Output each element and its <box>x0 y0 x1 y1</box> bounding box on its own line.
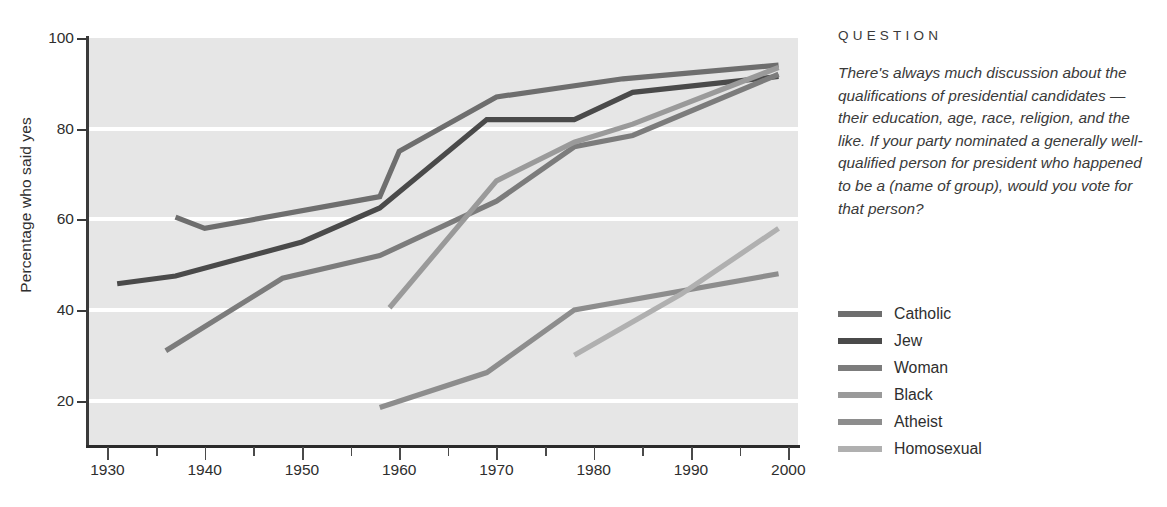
x-tick-mark-minor-1935 <box>156 447 158 456</box>
x-tick-mark-1990 <box>691 447 693 460</box>
x-tick-label-1940: 1940 <box>170 461 240 479</box>
legend-swatch-woman <box>838 365 882 371</box>
legend-item-homosexual[interactable]: Homosexual <box>838 435 1158 462</box>
x-axis-line <box>86 445 800 448</box>
y-tick-label-60: 60 <box>28 210 74 228</box>
y-axis-line <box>86 36 89 448</box>
line-chart: Percentage who said yes 20406080100 1930… <box>0 0 815 507</box>
series-line-atheist <box>380 274 779 408</box>
y-tick-mark-60 <box>77 219 87 221</box>
x-tick-label-1970: 1970 <box>461 461 531 479</box>
x-tick-mark-minor-1995 <box>740 447 742 456</box>
x-tick-mark-minor-1945 <box>253 447 255 456</box>
x-tick-mark-minor-1965 <box>448 447 450 456</box>
y-tick-mark-80 <box>77 129 87 131</box>
y-tick-label-20: 20 <box>28 392 74 410</box>
x-tick-mark-1940 <box>205 447 207 460</box>
x-tick-mark-minor-1975 <box>545 447 547 456</box>
side-panel: QUESTION There's always much discussion … <box>838 0 1167 507</box>
x-tick-mark-1950 <box>302 447 304 460</box>
legend-label-atheist: Atheist <box>894 414 942 430</box>
y-axis-label: Percentage who said yes <box>17 75 35 335</box>
legend-item-catholic[interactable]: Catholic <box>838 300 1158 327</box>
y-tick-mark-20 <box>77 401 87 403</box>
x-tick-label-2000: 2000 <box>753 461 823 479</box>
legend-swatch-atheist <box>838 419 882 425</box>
legend-item-atheist[interactable]: Atheist <box>838 408 1158 435</box>
x-tick-mark-1960 <box>399 447 401 460</box>
question-text: There's always much discussion about the… <box>838 62 1158 220</box>
question-header: QUESTION <box>838 28 942 43</box>
x-tick-label-1980: 1980 <box>559 461 629 479</box>
y-tick-label-100: 100 <box>28 29 74 47</box>
x-tick-mark-1930 <box>107 447 109 460</box>
legend-swatch-black <box>838 392 882 398</box>
y-tick-mark-40 <box>77 310 87 312</box>
x-tick-mark-2000 <box>788 447 790 460</box>
legend-label-homosexual: Homosexual <box>894 441 982 457</box>
legend-label-woman: Woman <box>894 360 948 376</box>
x-tick-mark-minor-1985 <box>642 447 644 456</box>
chart-page: Percentage who said yes 20406080100 1930… <box>0 0 1167 507</box>
legend-item-black[interactable]: Black <box>838 381 1158 408</box>
x-tick-mark-1980 <box>594 447 596 460</box>
series-lines <box>88 38 798 446</box>
y-tick-mark-100 <box>77 38 87 40</box>
x-tick-mark-minor-1955 <box>351 447 353 456</box>
x-tick-label-1960: 1960 <box>364 461 434 479</box>
legend-swatch-homosexual <box>838 446 882 452</box>
legend-swatch-jew <box>838 338 882 344</box>
legend-label-black: Black <box>894 387 933 403</box>
plot-area <box>88 38 798 446</box>
legend-swatch-catholic <box>838 311 882 317</box>
y-tick-label-80: 80 <box>28 120 74 138</box>
legend-label-jew: Jew <box>894 333 922 349</box>
chart-legend: CatholicJewWomanBlackAtheistHomosexual <box>838 300 1158 462</box>
x-tick-label-1950: 1950 <box>267 461 337 479</box>
x-tick-label-1930: 1930 <box>72 461 142 479</box>
legend-item-jew[interactable]: Jew <box>838 327 1158 354</box>
legend-item-woman[interactable]: Woman <box>838 354 1158 381</box>
x-tick-label-1990: 1990 <box>656 461 726 479</box>
y-tick-label-40: 40 <box>28 301 74 319</box>
x-tick-mark-1970 <box>496 447 498 460</box>
series-line-black <box>390 67 779 307</box>
legend-label-catholic: Catholic <box>894 306 951 322</box>
